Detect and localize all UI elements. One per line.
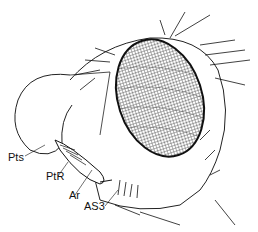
label-as3: AS3 bbox=[84, 201, 105, 212]
compound-eye bbox=[102, 28, 219, 168]
fly-head-drawing bbox=[0, 0, 258, 232]
label-ptr: PtR bbox=[46, 171, 64, 182]
label-pts: Pts bbox=[8, 152, 24, 163]
fly-head-diagram: Pts PtR Ar AS3 bbox=[0, 0, 258, 232]
label-ar: Ar bbox=[69, 190, 80, 201]
